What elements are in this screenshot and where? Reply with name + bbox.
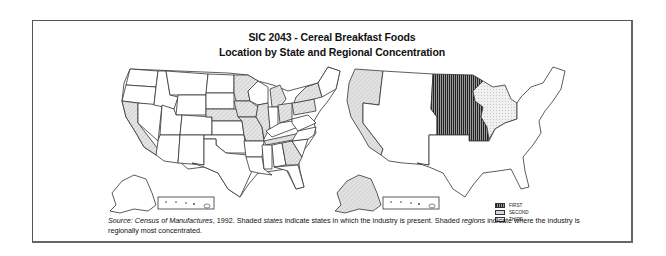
regional-concentration-map — [333, 61, 583, 217]
figure-title: SIC 2043 - Cereal Breakfast Foods — [33, 31, 631, 43]
caption-source-year: , 1992. — [213, 216, 235, 225]
caption-states-word: states — [263, 216, 282, 225]
figure-caption: Source: Census of Manufactures, 1992. Sh… — [108, 216, 588, 236]
legend-item-first: FIRST — [495, 202, 529, 209]
figure-subtitle: Location by State and Regional Concentra… — [33, 46, 631, 58]
caption-text-1: Shaded — [235, 216, 264, 225]
caption-text-2: indicate states in which the industry is… — [283, 216, 462, 225]
legend-label-first: FIRST — [509, 203, 522, 208]
figure-frame: SIC 2043 - Cereal Breakfast Foods Locati… — [32, 20, 633, 243]
legend-label-second: SECOND — [509, 210, 529, 215]
legend-item-second: SECOND — [495, 209, 529, 216]
legend-swatch-second — [495, 210, 505, 215]
legend-swatch-first — [495, 203, 505, 208]
caption-regions-word: regions — [462, 216, 486, 225]
caption-source-title: Census of Manufactures — [135, 216, 213, 225]
caption-source-label: Source: — [108, 216, 133, 225]
state-presence-map — [108, 61, 358, 217]
